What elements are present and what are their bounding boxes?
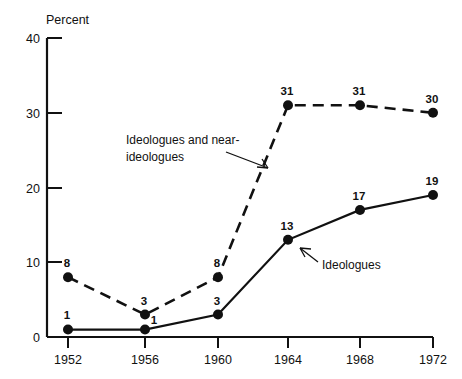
data-point-label: 1 [64,309,71,321]
series-line-ideologues-and-near-ideologues [68,105,433,314]
data-point-label: 31 [281,85,294,97]
data-point [428,108,438,118]
annotation-near-ideologues-arrow [226,152,268,168]
x-tick-label-1964: 1964 [274,353,302,367]
x-tick-label-1960: 1960 [204,353,232,367]
data-point-label: 8 [214,257,221,269]
data-point-label: 8 [64,257,71,269]
line-chart: Percent 40 30 20 10 0 1952 1956 1960 196… [0,0,462,379]
data-point [63,272,73,282]
annotation-ideologues-text: Ideologues [322,258,381,272]
y-tick-label-30: 30 [26,107,40,121]
y-axis-title: Percent [46,13,90,27]
data-point [355,205,365,215]
data-point-label: 31 [353,85,366,97]
data-point-label: 17 [353,190,366,202]
y-tick-label-10: 10 [26,256,40,270]
annotation-ideologues-arrow [300,248,318,262]
chart-container: Percent 40 30 20 10 0 1952 1956 1960 196… [0,0,462,379]
x-tick-label-1952: 1952 [54,353,82,367]
x-tick-label-1956: 1956 [131,353,159,367]
series-markers-ideologues-and-near-ideologues [63,100,438,319]
data-point-label: 13 [281,220,294,232]
data-point-label: 30 [426,93,439,105]
data-point [283,235,293,245]
data-point [213,272,223,282]
data-point [355,100,365,110]
x-tick-label-1972: 1972 [419,353,447,367]
data-point [213,310,223,320]
data-point [283,100,293,110]
y-tick-label-20: 20 [26,182,40,196]
series-markers-ideologues [63,190,438,335]
x-tick-label-1968: 1968 [346,353,374,367]
data-point-label: 1 [151,314,158,326]
data-point [140,325,150,335]
annotation-near-ideologues-line1: Ideologues and near- [126,133,239,147]
y-tick-label-40: 40 [26,32,40,46]
annotation-near-ideologues-line2: ideologues [126,150,184,164]
data-point-label: 3 [214,295,220,307]
data-point-label: 3 [141,295,147,307]
data-point [428,190,438,200]
y-tick-label-0: 0 [33,331,40,345]
data-point-label: 19 [426,175,439,187]
data-point [63,325,73,335]
data-point [140,310,150,320]
